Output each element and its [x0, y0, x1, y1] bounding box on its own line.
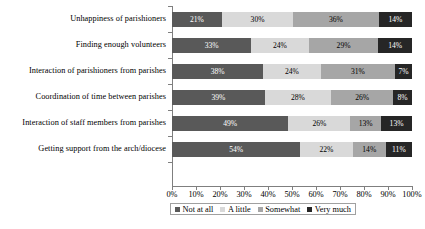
- bar-segment: 7%: [395, 64, 412, 79]
- bar-value-label: 13%: [390, 119, 404, 128]
- bar-value-label: 38%: [211, 67, 225, 76]
- bar-value-label: 39%: [211, 93, 225, 102]
- stacked-bar: 54%22%14%11%: [172, 142, 412, 157]
- x-axis-tick-label: 40%: [260, 190, 275, 199]
- stacked-bar: 38%24%31%7%: [172, 64, 412, 79]
- bar-segment: 29%: [309, 38, 379, 53]
- legend-item[interactable]: Not at all: [175, 205, 213, 214]
- bar-row: Getting support from the arch/diocese54%…: [0, 136, 425, 162]
- bar-value-label: 7%: [399, 67, 409, 76]
- bar-value-label: 14%: [388, 15, 402, 24]
- bar-segment: 24%: [263, 64, 321, 79]
- bar-segment: 26%: [331, 90, 393, 105]
- bar-value-label: 33%: [205, 41, 219, 50]
- legend-item[interactable]: A little: [220, 205, 250, 214]
- bar-value-label: 26%: [312, 119, 326, 128]
- bar-segment: 28%: [265, 90, 332, 105]
- bar-segment: 49%: [172, 116, 288, 131]
- chart-legend: Not at allA littleSomewhatVery much: [170, 203, 356, 215]
- y-axis-tick: [168, 162, 172, 163]
- bar-row: Interaction of staff members from parish…: [0, 110, 425, 136]
- bar-value-label: 24%: [285, 67, 299, 76]
- x-axis-tick-label: 0%: [166, 190, 177, 199]
- bar-segment: 31%: [321, 64, 395, 79]
- x-axis-tick-labels: 0%10%20%30%40%50%60%70%80%90%100%: [0, 190, 425, 202]
- x-axis-tick-label: 10%: [188, 190, 203, 199]
- stacked-bar-chart: Unhappiness of parishioners21%30%36%14%F…: [0, 0, 425, 229]
- bar-value-label: 26%: [355, 93, 369, 102]
- x-axis-tick-label: 50%: [284, 190, 299, 199]
- bar-segment: 14%: [353, 142, 386, 157]
- bar-segment: 22%: [300, 142, 352, 157]
- stacked-bar: 33%24%29%14%: [172, 38, 412, 53]
- legend-label: A little: [228, 205, 251, 214]
- x-axis-tick-label: 20%: [212, 190, 227, 199]
- x-axis-tick-label: 30%: [236, 190, 251, 199]
- x-axis-tick-label: 100%: [402, 190, 421, 199]
- bar-segment: 54%: [172, 142, 300, 157]
- plot-area: Unhappiness of parishioners21%30%36%14%F…: [0, 0, 425, 186]
- legend-label: Somewhat: [265, 205, 300, 214]
- bar-segment: 38%: [172, 64, 263, 79]
- bar-value-label: 11%: [392, 145, 406, 154]
- bar-segment: 13%: [350, 116, 381, 131]
- bar-segment: 8%: [393, 90, 412, 105]
- bar-value-label: 13%: [359, 119, 373, 128]
- bar-row: Unhappiness of parishioners21%30%36%14%: [0, 6, 425, 32]
- legend-item[interactable]: Very much: [307, 205, 351, 214]
- bar-value-label: 30%: [251, 15, 265, 24]
- bar-segment: 39%: [172, 90, 265, 105]
- bar-value-label: 14%: [388, 41, 402, 50]
- bar-segment: 21%: [172, 12, 222, 27]
- legend-swatch-icon: [175, 207, 180, 212]
- bar-segment: 24%: [251, 38, 309, 53]
- bar-value-label: 21%: [190, 15, 204, 24]
- category-label: Interaction of staff members from parish…: [0, 118, 170, 128]
- bar-segment: 13%: [381, 116, 412, 131]
- bar-value-label: 8%: [397, 93, 407, 102]
- bar-value-label: 22%: [320, 145, 334, 154]
- bar-value-label: 28%: [291, 93, 305, 102]
- x-axis-tick-label: 80%: [356, 190, 371, 199]
- bar-segment: 14%: [378, 38, 412, 53]
- legend-swatch-icon: [307, 207, 312, 212]
- bar-value-label: 24%: [273, 41, 287, 50]
- category-label: Finding enough volunteers: [0, 40, 170, 50]
- stacked-bar: 39%28%26%8%: [172, 90, 412, 105]
- category-label: Interaction of parishioners from parishe…: [0, 66, 170, 76]
- x-axis-tick-label: 60%: [308, 190, 323, 199]
- x-axis-tick-label: 90%: [380, 190, 395, 199]
- legend-swatch-icon: [258, 207, 263, 212]
- legend-swatch-icon: [220, 207, 225, 212]
- bar-value-label: 14%: [362, 145, 376, 154]
- bar-value-label: 29%: [337, 41, 351, 50]
- legend-label: Very much: [315, 205, 351, 214]
- bar-row: Finding enough volunteers33%24%29%14%: [0, 32, 425, 58]
- bar-value-label: 36%: [329, 15, 343, 24]
- bar-segment: 36%: [293, 12, 379, 27]
- bar-segment: 30%: [222, 12, 293, 27]
- bar-row: Interaction of parishioners from parishe…: [0, 58, 425, 84]
- bar-row: Coordination of time between parishes39%…: [0, 84, 425, 110]
- bar-value-label: 31%: [351, 67, 365, 76]
- category-label: Coordination of time between parishes: [0, 92, 170, 102]
- bar-value-label: 49%: [223, 119, 237, 128]
- bar-segment: 14%: [379, 12, 412, 27]
- x-axis-tick-label: 70%: [332, 190, 347, 199]
- bar-segment: 26%: [288, 116, 350, 131]
- legend-label: Not at all: [183, 205, 214, 214]
- legend-item[interactable]: Somewhat: [258, 205, 301, 214]
- bar-value-label: 54%: [229, 145, 243, 154]
- category-label: Unhappiness of parishioners: [0, 14, 170, 24]
- stacked-bar: 49%26%13%13%: [172, 116, 412, 131]
- category-label: Getting support from the arch/diocese: [0, 144, 170, 154]
- bar-segment: 11%: [386, 142, 412, 157]
- stacked-bar: 21%30%36%14%: [172, 12, 412, 27]
- bar-segment: 33%: [172, 38, 251, 53]
